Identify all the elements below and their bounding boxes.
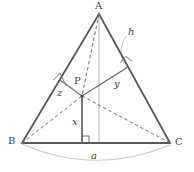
dashed-segment-ap bbox=[82, 14, 99, 96]
vertex-label-a: A bbox=[95, 1, 102, 11]
geometry-figure: A B C P h y z x a bbox=[0, 0, 194, 172]
segment-label-a: a bbox=[91, 151, 97, 161]
right-angle-marker-base bbox=[82, 136, 89, 143]
triangle-abc-outline bbox=[22, 14, 170, 143]
segment-label-h: h bbox=[128, 27, 134, 37]
segment-label-x: x bbox=[72, 117, 78, 127]
point-label-p: P bbox=[74, 76, 81, 86]
segment-label-z: z bbox=[57, 88, 62, 98]
geometry-diagram-svg bbox=[0, 0, 194, 172]
perpendicular-segment-y bbox=[82, 67, 128, 96]
vertex-label-b: B bbox=[8, 136, 15, 146]
segment-label-y: y bbox=[114, 79, 120, 89]
vertex-label-c: C bbox=[175, 137, 183, 147]
point-p-dot bbox=[81, 95, 84, 98]
